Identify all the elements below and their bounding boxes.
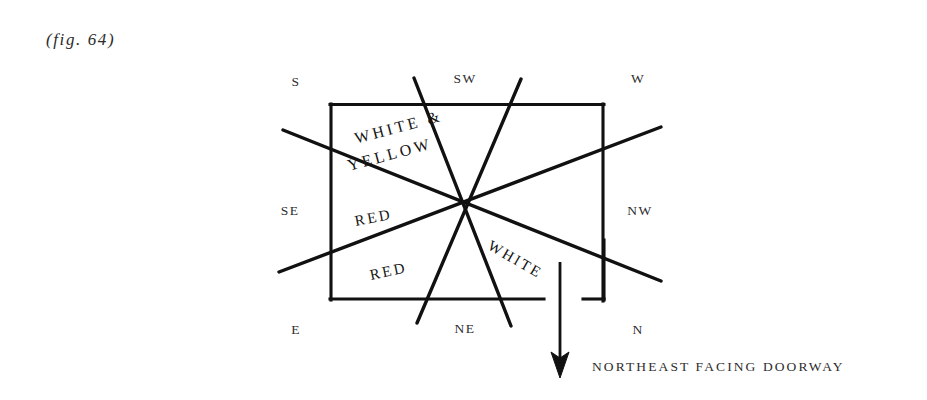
compass-label-se: SE: [281, 203, 300, 219]
compass-label-nw: NW: [627, 203, 652, 219]
floor-plan-diagram: [0, 0, 927, 400]
compass-label-w: W: [631, 71, 645, 87]
compass-label-n: N: [632, 322, 643, 338]
compass-label-ne: NE: [455, 321, 476, 337]
figure-canvas: (fig. 64): [0, 0, 927, 400]
compass-label-s: S: [292, 74, 301, 90]
doorway-direction-arrow: [551, 262, 569, 378]
doorway-caption: NORTHEAST FACING DOORWAY: [592, 359, 845, 375]
compass-label-e: E: [291, 322, 301, 338]
compass-label-sw: SW: [453, 71, 476, 87]
